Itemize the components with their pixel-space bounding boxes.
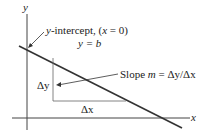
delta-x-label: Δx — [81, 104, 94, 115]
intercept-label-line1: y-intercept, (x = 0) — [46, 25, 128, 36]
intercept-label-line2: y = b — [78, 38, 101, 49]
slope-arrowhead-icon — [56, 82, 61, 87]
x-axis-label: x — [191, 112, 196, 123]
y-axis-label: y — [23, 2, 28, 13]
delta-y-label: Δy — [37, 80, 50, 91]
slope-label: Slope m = Δy/Δx — [120, 69, 196, 80]
slope-pointer — [58, 74, 118, 85]
